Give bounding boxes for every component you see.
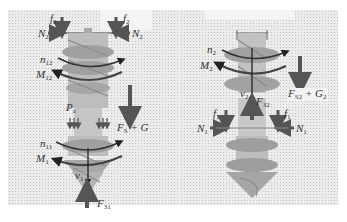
label-pa: Pa (66, 102, 76, 115)
label-n2-right: N2 (132, 28, 143, 41)
label-m2: M2 (200, 60, 213, 73)
label-fs-g: FS + G (117, 122, 149, 135)
label-f32: F32 (256, 96, 270, 109)
label-n12: n12 (40, 54, 53, 67)
label-m1: M1 (36, 153, 49, 166)
label-n11: n11 (40, 138, 52, 151)
label-v1: v1 (75, 170, 83, 183)
label-f31: F31 (97, 198, 111, 211)
label-fs2-g2: FS2 + G2 (287, 88, 328, 101)
label-f2-left: f2 (50, 13, 57, 26)
label-m12: M12 (36, 69, 52, 82)
label-f1-right: f1 (284, 108, 291, 121)
diagram-graphics (0, 0, 347, 222)
label-v2: v2 (240, 88, 248, 101)
left-pile (50, 28, 128, 192)
label-f1-left: f1 (213, 108, 220, 121)
label-n2: n2 (207, 44, 216, 57)
label-n1-left: N1 (197, 123, 208, 136)
label-n1-right: N1 (296, 123, 307, 136)
label-f2-right: f2 (123, 13, 130, 26)
label-n2-left: N2 (38, 28, 49, 41)
